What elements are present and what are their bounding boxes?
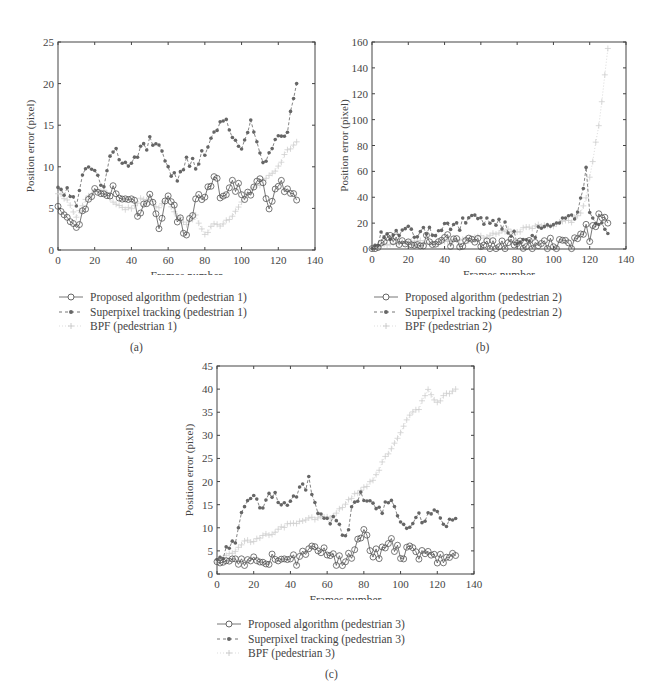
x-tick-label: 40 <box>126 254 138 266</box>
series-circle <box>55 174 300 238</box>
legend-item-superpixel: Superpixel tracking (pedestrian 2) <box>373 305 562 320</box>
y-tick-label: 15 <box>43 119 55 131</box>
chart-panel-b: 020406080100120140020406080100120140160F… <box>330 0 663 360</box>
chart-panel-a: 0204060801001201400510152025Frames numbe… <box>0 0 330 360</box>
legend-label: Superpixel tracking (pedestrian 1) <box>90 305 247 320</box>
y-axis-label: Position error (pixel) <box>338 99 351 192</box>
series-plus <box>214 386 459 565</box>
y-tick-label: 0 <box>49 244 55 256</box>
series-asterisk <box>215 475 457 562</box>
x-tick-label: 140 <box>466 578 483 590</box>
chart-panel-c: 020406080100120140051015202530354045Fram… <box>170 350 500 688</box>
legend-label: Superpixel tracking (pedestrian 3) <box>248 632 405 647</box>
y-tick-label: 5 <box>208 545 214 557</box>
y-tick-label: 160 <box>352 36 369 48</box>
y-tick-label: 140 <box>352 62 369 74</box>
plot-b: 020406080100120140020406080100120140160F… <box>330 0 663 275</box>
legend-item-proposed: Proposed algorithm (pedestrian 3) <box>216 617 405 632</box>
x-tick-label: 120 <box>270 254 287 266</box>
legend-a: Proposed algorithm (pedestrian 1) Superp… <box>58 290 247 334</box>
legend-item-bpf: BPF (pedestrian 3) <box>216 646 405 661</box>
x-tick-label: 60 <box>322 578 334 590</box>
series-asterisk <box>56 82 298 208</box>
y-tick-label: 25 <box>202 452 214 464</box>
y-tick-label: 15 <box>202 499 214 511</box>
legend-label: BPF (pedestrian 3) <box>248 646 335 661</box>
y-tick-label: 100 <box>352 114 369 126</box>
y-tick-label: 20 <box>202 476 214 488</box>
x-tick-label: 0 <box>369 253 375 265</box>
legend-label: Superpixel tracking (pedestrian 2) <box>405 305 562 320</box>
legend-label: BPF (pedestrian 1) <box>90 319 177 334</box>
x-tick-label: 100 <box>392 578 409 590</box>
x-tick-label: 0 <box>214 578 220 590</box>
x-tick-label: 40 <box>285 578 297 590</box>
legend-item-bpf: BPF (pedestrian 2) <box>373 319 562 334</box>
circle-marker-icon <box>373 291 399 303</box>
caption-c: (c) <box>325 668 338 680</box>
legend-label: Proposed algorithm (pedestrian 3) <box>248 617 405 632</box>
x-tick-label: 20 <box>89 254 101 266</box>
asterisk-marker-icon <box>216 633 242 645</box>
y-tick-label: 35 <box>202 406 214 418</box>
legend-c: Proposed algorithm (pedestrian 3) Superp… <box>216 617 405 661</box>
x-tick-label: 80 <box>199 254 211 266</box>
y-tick-label: 20 <box>43 78 55 90</box>
legend-label: BPF (pedestrian 2) <box>405 319 492 334</box>
x-tick-label: 20 <box>248 578 260 590</box>
y-axis-label: Position error (pixel) <box>183 424 196 517</box>
x-tick-label: 80 <box>358 578 370 590</box>
y-tick-label: 10 <box>43 161 55 173</box>
legend-b: Proposed algorithm (pedestrian 2) Superp… <box>373 290 562 334</box>
y-axis-label: Position error (pixel) <box>24 100 37 193</box>
x-tick-label: 20 <box>403 253 415 265</box>
y-tick-label: 30 <box>202 429 214 441</box>
x-tick-label: 60 <box>163 254 175 266</box>
plot-frame <box>217 366 474 574</box>
y-tick-label: 0 <box>208 568 214 580</box>
asterisk-marker-icon <box>58 306 84 318</box>
x-tick-label: 60 <box>475 253 487 265</box>
plot-a: 0204060801001201400510152025Frames numbe… <box>0 0 330 275</box>
y-tick-label: 40 <box>202 383 214 395</box>
x-tick-label: 40 <box>439 253 451 265</box>
plot-c: 020406080100120140051015202530354045Fram… <box>170 350 500 600</box>
x-tick-label: 80 <box>512 253 523 265</box>
legend-item-proposed: Proposed algorithm (pedestrian 2) <box>373 290 562 305</box>
x-tick-label: 140 <box>618 253 635 265</box>
y-tick-label: 5 <box>49 202 55 214</box>
x-tick-label: 0 <box>55 254 61 266</box>
legend-item-superpixel: Superpixel tracking (pedestrian 1) <box>58 305 247 320</box>
asterisk-marker-icon <box>373 306 399 318</box>
legend-item-bpf: BPF (pedestrian 1) <box>58 319 247 334</box>
y-tick-label: 45 <box>202 360 214 372</box>
plus-marker-icon <box>216 647 242 659</box>
y-tick-label: 20 <box>357 217 369 229</box>
circle-marker-icon <box>58 291 84 303</box>
legend-item-superpixel: Superpixel tracking (pedestrian 3) <box>216 632 405 647</box>
y-tick-label: 60 <box>357 165 369 177</box>
y-tick-label: 80 <box>357 140 369 152</box>
x-tick-label: 120 <box>429 578 446 590</box>
x-tick-label: 100 <box>545 253 562 265</box>
x-axis-label: Frames number <box>463 269 535 275</box>
y-tick-label: 10 <box>202 522 214 534</box>
legend-label: Proposed algorithm (pedestrian 2) <box>405 290 562 305</box>
plus-marker-icon <box>58 320 84 332</box>
x-axis-label: Frames number <box>310 594 382 600</box>
x-tick-label: 140 <box>307 254 324 266</box>
y-tick-label: 120 <box>352 88 369 100</box>
plus-marker-icon <box>373 320 399 332</box>
x-axis-label: Frames number <box>151 270 223 275</box>
legend-label: Proposed algorithm (pedestrian 1) <box>90 290 247 305</box>
y-tick-label: 25 <box>43 36 55 48</box>
x-tick-label: 120 <box>581 253 598 265</box>
legend-item-proposed: Proposed algorithm (pedestrian 1) <box>58 290 247 305</box>
circle-marker-icon <box>216 618 242 630</box>
caption-a: (a) <box>130 341 143 353</box>
y-tick-label: 0 <box>363 243 369 255</box>
series-circle <box>214 526 459 568</box>
y-tick-label: 40 <box>357 191 369 203</box>
x-tick-label: 100 <box>233 254 250 266</box>
